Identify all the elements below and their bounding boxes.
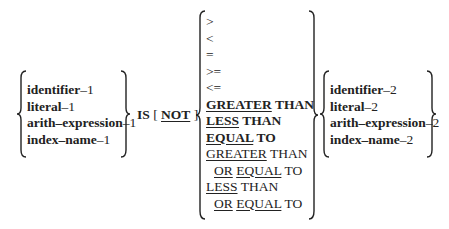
operand-index-name-2: index–name–2	[330, 132, 413, 149]
right-operands-close-brace	[427, 70, 437, 158]
is-not-clause: IS [ NOT ]	[137, 107, 198, 124]
operator-less-symbol: <	[206, 31, 214, 48]
operator-greater-than-or-equal-line2: OR EQUAL TO	[214, 163, 302, 180]
operand-arith-expression-1: arith–expression–1	[27, 115, 136, 132]
operator-equal-to: EQUAL TO	[206, 130, 276, 147]
operator-greater-than-or-equal-line1: GREATER THAN	[206, 146, 307, 163]
operator-less-than-or-equal-line2: OR EQUAL TO	[214, 196, 302, 213]
operand-literal-1: literal–1	[27, 99, 75, 116]
operator-less-than-or-equal-line1: LESS THAN	[206, 179, 278, 196]
relational-close-brace	[309, 10, 319, 220]
operator-greater-symbol: >	[206, 14, 214, 31]
left-operands-open-brace	[17, 70, 27, 158]
operator-less-than: LESS THAN	[206, 113, 281, 130]
operator-equal-symbol: =	[206, 47, 214, 64]
operator-greater-than: GREATER THAN	[206, 97, 314, 114]
operator-less-equal-symbol: <=	[206, 80, 221, 97]
operand-arith-expression-2: arith–expression–2	[330, 115, 439, 132]
not-keyword: NOT	[161, 107, 190, 122]
operand-identifier-1: identifier–1	[27, 82, 94, 99]
operand-identifier-2: identifier–2	[330, 82, 397, 99]
operand-literal-2: literal–2	[330, 99, 378, 116]
relational-open-brace	[196, 10, 206, 220]
right-operands-open-brace	[320, 70, 330, 158]
operator-greater-equal-symbol: >=	[206, 64, 221, 81]
is-keyword: IS	[137, 107, 150, 122]
optional-open-bracket: [	[153, 107, 158, 122]
operand-index-name-1: index–name–1	[27, 132, 110, 149]
left-operands-close-brace	[121, 70, 131, 158]
